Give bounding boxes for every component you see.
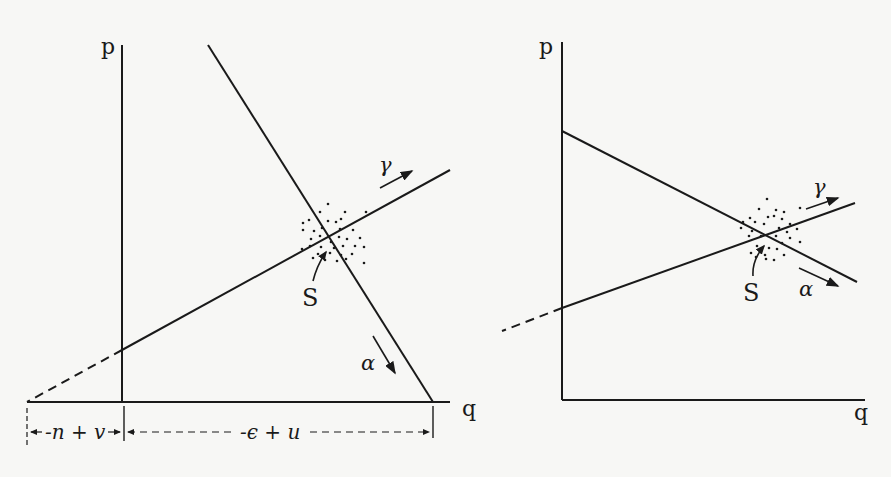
left-alpha-line <box>208 45 433 402</box>
left-dimension-label: -n + v <box>45 420 106 444</box>
right-q-axis-label: q <box>854 400 868 425</box>
left-q-axis-label: q <box>462 396 476 421</box>
left-diagram: p q γ α S <box>27 34 476 445</box>
left-alpha-label: α <box>361 351 375 375</box>
right-s-pointer-icon <box>753 246 764 276</box>
right-scatter-dots <box>740 198 802 262</box>
right-alpha-label: α <box>799 277 813 301</box>
right-gamma-label: γ <box>813 175 826 199</box>
right-gamma-line-extension <box>502 308 562 331</box>
left-gamma-line <box>122 170 450 350</box>
left-gamma-line-extension <box>27 350 122 402</box>
left-p-axis-label: p <box>101 34 115 59</box>
left-alpha-arrow-icon <box>373 336 395 373</box>
right-dimension-label: -ϵ + u <box>240 420 300 444</box>
right-p-axis-label: p <box>539 34 553 59</box>
right-gamma-arrow-icon <box>806 198 838 209</box>
left-gamma-label: γ <box>379 153 392 177</box>
right-diagram: p q γ α S <box>502 34 868 425</box>
left-s-pointer-icon <box>313 252 326 281</box>
left-s-label: S <box>302 284 318 312</box>
right-s-label: S <box>743 279 759 307</box>
diagram-canvas: p q γ α S <box>0 0 891 477</box>
